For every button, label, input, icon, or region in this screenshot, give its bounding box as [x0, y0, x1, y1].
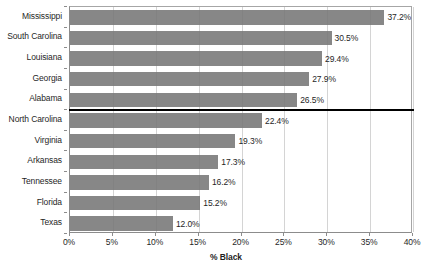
x-axis-tick-mark: [198, 233, 199, 236]
y-axis-tick-mark: [64, 150, 67, 151]
bar-series: 37.2%30.5%29.4%27.9%26.5%22.4%19.3%17.3%…: [70, 7, 411, 232]
x-axis-tick-label: 35%: [361, 237, 378, 247]
y-axis-tick-label: Alabama: [29, 93, 62, 103]
y-axis-tick-mark: [64, 109, 67, 110]
x-axis-tick-label: 5%: [106, 237, 118, 247]
x-axis-title-text: % Black: [210, 252, 242, 262]
x-axis-tick-label: 25%: [275, 237, 292, 247]
y-axis-tick-mark: [64, 212, 67, 213]
x-axis-tick-mark: [283, 233, 284, 236]
bar-row: 16.2%: [70, 175, 411, 190]
bar: [70, 93, 297, 108]
bar: [70, 10, 384, 25]
x-axis-tick-label: 40%: [404, 237, 421, 247]
bar-value-label: 30.5%: [335, 33, 359, 43]
y-axis-tick-label: Mississippi: [22, 11, 62, 21]
x-axis-tick-mark: [155, 233, 156, 236]
separator-rule: [69, 109, 414, 111]
y-axis-tick-mark: [64, 89, 67, 90]
x-axis-tick-label: 30%: [318, 237, 335, 247]
bar: [70, 175, 209, 190]
bar: [70, 196, 200, 211]
y-axis-tick-label: Texas: [40, 217, 62, 227]
x-axis-tick-label: 15%: [189, 237, 206, 247]
bar-value-label: 26.5%: [300, 95, 324, 105]
y-axis-tick-label: Arkansas: [27, 155, 62, 165]
y-axis-tick-mark: [64, 47, 67, 48]
x-axis-tick-mark: [112, 233, 113, 236]
y-axis-tick-label: Virginia: [35, 135, 62, 145]
y-axis-tick-mark: [64, 27, 67, 28]
y-axis-tick-label: North Carolina: [9, 114, 62, 124]
bar-value-label: 22.4%: [265, 116, 289, 126]
bar-row: 22.4%: [70, 113, 411, 128]
bar-value-label: 37.2%: [387, 12, 411, 22]
y-axis-tick-label: Tennessee: [22, 176, 62, 186]
y-axis-tick-mark: [64, 130, 67, 131]
bar-value-label: 19.3%: [238, 136, 262, 146]
x-axis-tick-mark: [412, 233, 413, 236]
x-axis-tick-mark: [369, 233, 370, 236]
bar-row: 27.9%: [70, 72, 411, 87]
bar-row: 26.5%: [70, 93, 411, 108]
bar-row: 12.0%: [70, 216, 411, 231]
bar-row: 19.3%: [70, 134, 411, 149]
y-axis-tick-label: South Carolina: [7, 31, 62, 41]
bar-value-label: 12.0%: [176, 219, 200, 229]
x-axis-tick-mark: [241, 233, 242, 236]
bar-value-label: 15.2%: [203, 198, 227, 208]
y-axis-tick-mark: [64, 171, 67, 172]
y-axis-tick-mark: [64, 68, 67, 69]
bar-chart: MississippiSouth CarolinaLouisianaGeorgi…: [0, 0, 428, 270]
y-axis-tick-label: Florida: [37, 197, 62, 207]
x-axis-tick-mark: [326, 233, 327, 236]
x-axis: 0%5%10%15%20%25%30%35%40%: [69, 233, 413, 249]
bar-value-label: 17.3%: [221, 157, 245, 167]
bar: [70, 155, 218, 170]
y-axis-tick-label: Georgia: [32, 73, 62, 83]
gridline: [413, 7, 414, 232]
x-axis-tick-label: 0%: [63, 237, 75, 247]
bar-row: 17.3%: [70, 155, 411, 170]
bar-row: 29.4%: [70, 51, 411, 66]
y-axis-tick-mark: [64, 6, 67, 7]
y-axis-tick-label: Louisiana: [27, 52, 63, 62]
x-axis-tick-label: 20%: [232, 237, 249, 247]
y-axis-labels: MississippiSouth CarolinaLouisianaGeorgi…: [0, 6, 66, 233]
bar: [70, 31, 332, 46]
bar: [70, 51, 322, 66]
bar: [70, 216, 173, 231]
bar: [70, 134, 235, 149]
bar-value-label: 29.4%: [325, 54, 349, 64]
x-axis-tick-mark: [69, 233, 70, 236]
bar-row: 30.5%: [70, 31, 411, 46]
bar-value-label: 16.2%: [212, 177, 236, 187]
bar-row: 37.2%: [70, 10, 411, 25]
y-axis-tick-mark: [64, 233, 67, 234]
plot-area: 37.2%30.5%29.4%27.9%26.5%22.4%19.3%17.3%…: [69, 6, 412, 233]
bar-value-label: 27.9%: [312, 74, 336, 84]
x-axis-tick-label: 10%: [146, 237, 163, 247]
x-axis-title: % Black: [0, 252, 428, 262]
bar: [70, 72, 309, 87]
y-axis-tick-mark: [64, 192, 67, 193]
bar-row: 15.2%: [70, 196, 411, 211]
bar: [70, 113, 262, 128]
